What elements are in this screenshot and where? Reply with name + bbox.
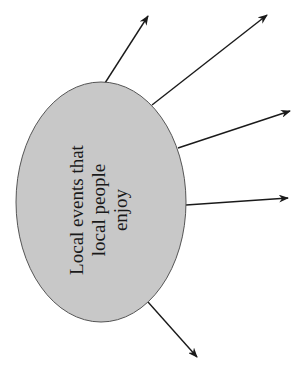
diagram-canvas: Local events that local people enjoy	[0, 0, 308, 378]
center-label-line-2: local people	[88, 164, 109, 256]
arrow-4	[186, 198, 288, 205]
center-label-line-1: Local events that	[66, 144, 87, 275]
center-label-line-3: enjoy	[110, 188, 131, 231]
arrow-5	[148, 302, 197, 357]
arrow-3	[178, 111, 290, 148]
arrow-2	[152, 15, 267, 105]
arrow-1	[105, 16, 148, 83]
spider-diagram: Local events that local people enjoy	[0, 0, 308, 378]
